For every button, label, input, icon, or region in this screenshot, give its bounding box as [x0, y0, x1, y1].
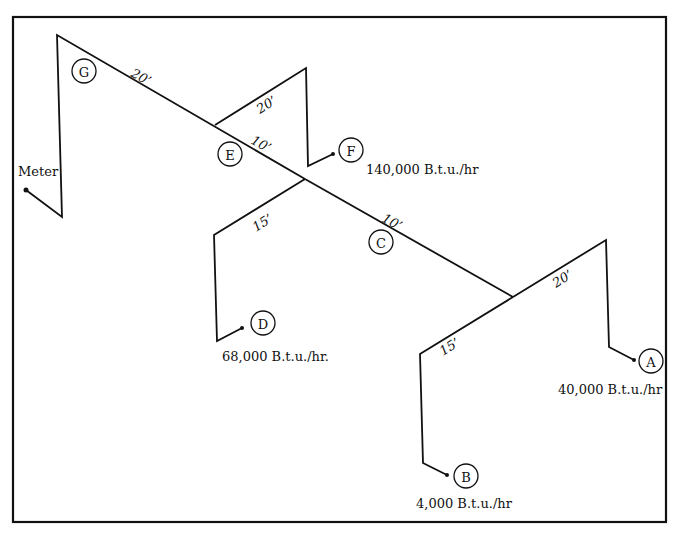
- length-label-E-F: 20’: [253, 93, 279, 117]
- load-label-A: 40,000 B.t.u./hr: [558, 382, 663, 397]
- svg-text:E: E: [225, 148, 235, 163]
- node-B: B: [454, 464, 478, 488]
- A-endpoint: [632, 358, 636, 362]
- svg-text:C: C: [376, 236, 386, 251]
- meter-label: Meter: [18, 164, 59, 179]
- branch-B: [420, 297, 513, 477]
- node-F: F: [339, 138, 363, 162]
- svg-text:B: B: [461, 470, 471, 485]
- node-G: G: [72, 59, 96, 83]
- node-C: C: [369, 230, 393, 254]
- load-label-D: 68,000 B.t.u./hr.: [222, 349, 329, 364]
- load-label-B: 4,000 B.t.u./hr: [416, 496, 513, 511]
- length-label-G: 20’: [128, 65, 154, 88]
- length-label-E-C: 10’: [249, 132, 274, 155]
- branch-A: [513, 240, 636, 362]
- length-label-B: 15’: [437, 335, 462, 359]
- length-label-D: 15’: [250, 211, 275, 235]
- load-label-F: 140,000 B.t.u./hr: [366, 162, 479, 177]
- D-endpoint: [240, 326, 244, 330]
- meter-endpoint: [24, 188, 29, 193]
- svg-text:G: G: [79, 65, 89, 80]
- node-E: E: [218, 142, 242, 166]
- main-line-C: [305, 179, 513, 297]
- length-label-A: 20’: [549, 267, 575, 291]
- svg-text:F: F: [346, 144, 355, 159]
- B-endpoint: [445, 473, 449, 477]
- node-A: A: [639, 349, 663, 373]
- F-endpoint: [331, 152, 335, 156]
- piping-diagram: Meter 20’ 20’ 10’ 15’ 10’ 20’ 15’ G E F: [0, 0, 677, 534]
- svg-text:D: D: [258, 317, 268, 332]
- svg-text:A: A: [645, 355, 656, 370]
- node-D: D: [251, 311, 275, 335]
- meter-branch: Meter: [18, 35, 305, 217]
